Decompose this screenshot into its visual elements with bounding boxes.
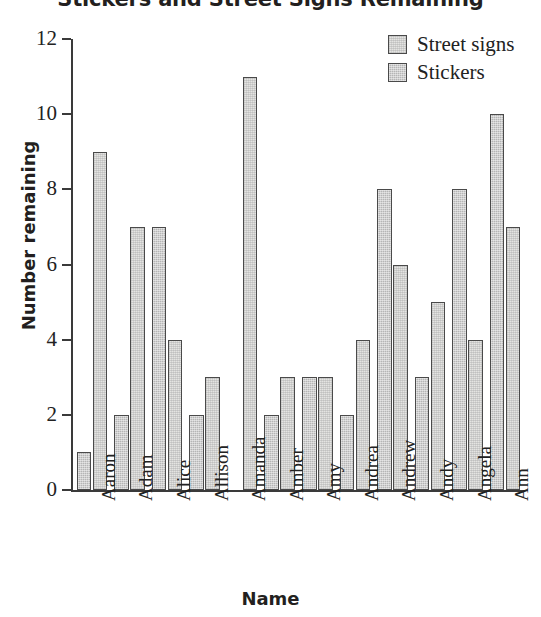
bar-stickers <box>452 189 467 490</box>
x-axis-tick-label: Amanda <box>249 437 268 501</box>
bar-group <box>148 39 186 490</box>
bar-street-signs <box>93 152 108 490</box>
chart-title: Stickers and Street Signs Remaining <box>0 0 541 11</box>
legend-swatch-streetsigns-icon <box>388 35 407 54</box>
plot-area <box>71 39 524 491</box>
bar-street-signs <box>506 227 521 490</box>
bar-stickers <box>77 452 92 490</box>
y-axis-tick-label: 8 <box>15 178 57 199</box>
x-axis-tick-label: Andy <box>437 459 456 501</box>
y-axis-tick <box>62 113 71 115</box>
x-axis-tick-label: Adam <box>136 455 155 501</box>
bar-street-signs <box>130 227 145 490</box>
bar-group <box>336 39 374 490</box>
y-axis-tick <box>62 489 71 491</box>
y-axis-title: Number remaining <box>18 126 39 346</box>
x-axis-title: Name <box>0 588 541 609</box>
x-axis-tick-label: Aaron <box>99 454 118 501</box>
bar-group <box>73 39 111 490</box>
legend-label: Stickers <box>417 62 485 83</box>
x-axis-tick-label: Angela <box>475 446 494 501</box>
y-axis-tick <box>62 38 71 40</box>
y-axis-tick-label: 6 <box>15 254 57 275</box>
chart-legend: Street signsStickers <box>388 30 538 86</box>
y-axis-tick <box>62 264 71 266</box>
x-axis-tick-label: Alice <box>174 460 193 501</box>
y-axis-tick-label: 4 <box>15 329 57 350</box>
bar-group <box>223 39 261 490</box>
x-axis-tick-label: Amy <box>324 463 343 501</box>
legend-item: Street signs <box>388 30 538 58</box>
bar-stickers <box>490 114 505 490</box>
x-axis-tick-label: Allison <box>212 445 231 501</box>
x-axis-tick-label: Amber <box>287 448 306 501</box>
bar-series-container <box>73 39 524 490</box>
y-axis-tick-label: 10 <box>15 103 57 124</box>
y-axis-tick <box>62 188 71 190</box>
bar-group <box>449 39 487 490</box>
bar-stickers <box>152 227 167 490</box>
y-axis-tick-label: 0 <box>15 479 57 500</box>
bar-group <box>186 39 224 490</box>
y-axis-tick-label: 12 <box>15 28 57 49</box>
y-axis-tick-label: 2 <box>15 404 57 425</box>
y-axis-tick <box>62 414 71 416</box>
bar-group <box>299 39 337 490</box>
x-axis-tick-label: Andrea <box>362 445 381 501</box>
y-axis-tick <box>62 339 71 341</box>
legend-label: Street signs <box>417 34 514 55</box>
legend-swatch-stickers-icon <box>388 63 407 82</box>
chart-figure: Stickers and Street Signs Remaining Numb… <box>0 0 541 617</box>
bar-street-signs <box>243 77 258 490</box>
bar-group <box>374 39 412 490</box>
bar-group <box>111 39 149 490</box>
legend-item: Stickers <box>388 58 538 86</box>
x-axis-tick-label: Ann <box>512 468 531 501</box>
bar-group <box>486 39 524 490</box>
x-axis-tick-label: Andrew <box>399 440 418 501</box>
bar-group <box>411 39 449 490</box>
bar-group <box>261 39 299 490</box>
